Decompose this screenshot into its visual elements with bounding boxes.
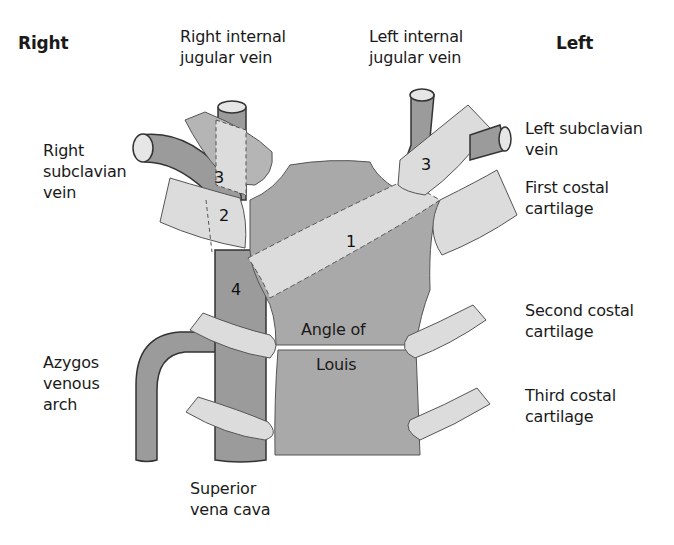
left-ijv-opening <box>410 89 434 101</box>
azygos-arch <box>136 332 220 462</box>
label-third-costal: Third costal cartilage <box>525 385 616 427</box>
left-first-costal-cartilage <box>433 170 517 255</box>
label-right-internal-jugular: Right internal jugular vein <box>180 26 286 68</box>
region-1-number: 1 <box>346 232 356 251</box>
orientation-right: Right <box>18 33 68 54</box>
label-second-costal: Second costal cartilage <box>525 300 634 342</box>
label-right-subclavian: Right subclavian vein <box>43 140 127 203</box>
left-subclavian-opening <box>499 127 511 151</box>
label-louis: Louis <box>316 354 356 375</box>
region-3-right-number: 3 <box>214 168 224 187</box>
label-azygos: Azygos venous arch <box>43 352 100 415</box>
right-ijv-opening <box>218 101 246 113</box>
region-3-left-number: 3 <box>421 155 431 174</box>
right-subclavian-opening <box>133 134 153 162</box>
anatomy-diagram <box>0 0 674 545</box>
label-left-subclavian: Left subclavian vein <box>525 118 643 160</box>
label-angle-of: Angle of <box>301 319 365 340</box>
left-third-costal-cartilage <box>408 388 490 440</box>
region-2-number: 2 <box>219 206 229 225</box>
orientation-left: Left <box>556 33 593 54</box>
label-svc: Superior vena cava <box>190 478 270 520</box>
region-4-number: 4 <box>231 280 241 299</box>
label-first-costal: First costal cartilage <box>525 177 609 219</box>
label-left-internal-jugular: Left internal jugular vein <box>369 26 463 68</box>
